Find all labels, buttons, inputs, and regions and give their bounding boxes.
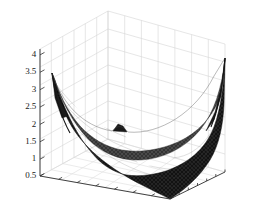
surface-rim-highlight [52,58,225,132]
z-tick-label-4: 4 [14,50,36,59]
left-wall-grid [40,11,108,176]
z-tick-label-3.5: 3.5 [14,67,36,76]
surface-mesh [52,58,225,199]
z-tick-label-3: 3 [14,85,36,94]
plot-canvas [0,0,262,216]
z-tick-label-2: 2 [14,120,36,129]
z-tick-label-2.5: 2.5 [14,102,36,111]
z-tick-label-0.5: 0.5 [14,171,36,180]
z-tick-label-1.5: 1.5 [14,137,36,146]
surface-plot-figure: 4 3.5 3 2.5 2 1.5 1 0.5 [0,0,262,216]
z-tick-label-1: 1 [14,154,36,163]
